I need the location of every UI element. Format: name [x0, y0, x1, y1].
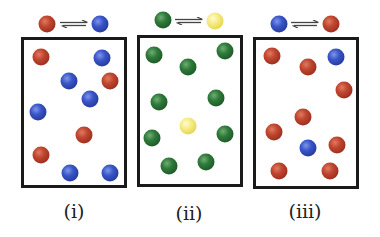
molecule-blue	[102, 165, 119, 182]
equilibrium-arrow-icon	[59, 20, 89, 28]
molecule-red	[336, 82, 353, 99]
reactant-ball-blue	[271, 16, 288, 33]
molecule-blue	[94, 50, 111, 67]
molecule-blue	[30, 104, 47, 121]
reactant-ball-green	[155, 12, 172, 29]
molecule-red	[102, 73, 119, 90]
equilibrium-arrow-icon	[174, 17, 204, 25]
molecule-blue	[328, 49, 345, 66]
molecule-blue	[300, 140, 317, 157]
molecule-red	[329, 137, 346, 154]
molecule-yellow	[180, 118, 197, 135]
molecule-red	[76, 127, 93, 144]
molecule-red	[300, 59, 317, 76]
product-ball-red	[323, 16, 340, 33]
molecule-green	[198, 154, 215, 171]
molecule-blue	[61, 73, 78, 90]
molecule-blue	[82, 91, 99, 108]
panel-label-i: (i)	[64, 200, 85, 222]
molecule-green	[208, 90, 225, 107]
molecule-green	[217, 43, 234, 60]
molecule-red	[295, 109, 312, 126]
panel-label-ii: (ii)	[176, 202, 203, 224]
panel-label-iii: (iii)	[288, 200, 321, 222]
product-ball-yellow	[207, 13, 224, 30]
molecule-red	[264, 48, 281, 65]
molecule-red	[33, 49, 50, 66]
reactant-ball-red	[39, 16, 56, 33]
molecule-red	[322, 163, 339, 180]
molecule-green	[144, 130, 161, 147]
molecule-red	[271, 163, 288, 180]
product-ball-blue	[92, 16, 109, 33]
molecule-blue	[62, 165, 79, 182]
molecule-green	[217, 126, 234, 143]
molecule-red	[266, 124, 283, 141]
molecule-green	[151, 94, 168, 111]
molecule-green	[146, 47, 163, 64]
equilibrium-arrow-icon	[290, 20, 320, 28]
molecule-green	[180, 59, 197, 76]
molecule-green	[161, 158, 178, 175]
molecule-red	[33, 147, 50, 164]
